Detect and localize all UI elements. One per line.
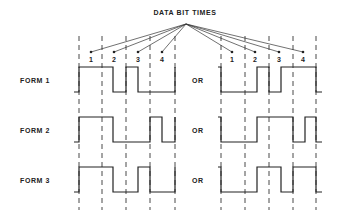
timing-diagram: DATA BIT TIMES 1 2 3 4 1 2 3 4	[0, 0, 341, 224]
svg-text:3: 3	[277, 56, 281, 63]
bit-numbers: 1 2 3 4 1 2 3 4	[89, 56, 305, 63]
or-label-2: OR	[192, 127, 204, 134]
form-1-left-waveform	[74, 67, 175, 92]
diagram-title: DATA BIT TIMES	[153, 9, 216, 16]
svg-text:1: 1	[230, 56, 234, 63]
form-1-right-waveform	[218, 67, 322, 92]
svg-text:2: 2	[112, 56, 116, 63]
form-3-right-waveform	[218, 167, 322, 192]
form-2-right-waveform	[218, 117, 322, 142]
or-label-1: OR	[192, 77, 204, 84]
svg-text:3: 3	[136, 56, 140, 63]
form-2-label: FORM 2	[20, 127, 50, 134]
form-3-label: FORM 3	[20, 177, 50, 184]
fan-lines	[91, 24, 303, 52]
bit-dots	[90, 51, 305, 54]
or-label-3: OR	[192, 177, 204, 184]
form-2-left-waveform	[74, 117, 175, 142]
svg-text:4: 4	[301, 56, 305, 63]
svg-text:4: 4	[160, 56, 164, 63]
form-1-label: FORM 1	[20, 77, 50, 84]
form-3-left-waveform	[74, 167, 175, 192]
svg-text:1: 1	[89, 56, 93, 63]
svg-text:2: 2	[253, 56, 257, 63]
